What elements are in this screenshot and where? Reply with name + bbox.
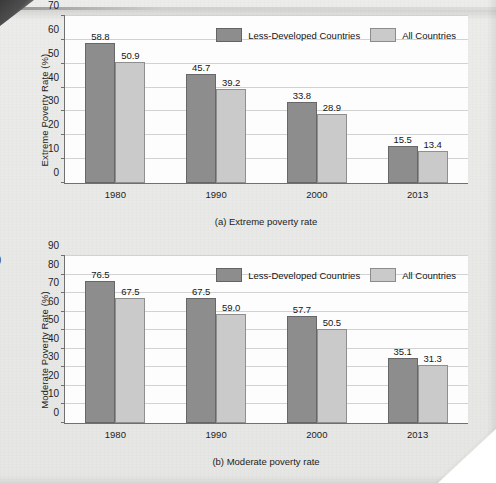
bar[interactable]: 50.9 (115, 62, 145, 183)
x-axis-tick-label: 1990 (206, 189, 227, 200)
legend-label: All Countries (402, 270, 456, 281)
x-axis-tick-label: 2013 (407, 429, 428, 440)
y-axis-tick-label: 30 (48, 351, 59, 362)
y-axis-tick-label: 0 (53, 407, 59, 418)
legend-item[interactable]: All Countries (370, 28, 456, 42)
y-axis-tick-label: 0 (53, 167, 59, 178)
chart-figure-b: ) Moderate Poverty Rate (%) 010203040506… (0, 250, 496, 478)
bar[interactable]: 59.0 (216, 314, 246, 423)
chart-b-area: Moderate Poverty Rate (%) 01020304050607… (18, 250, 476, 450)
bar-value-label: 15.5 (393, 134, 412, 145)
y-axis-tick-label: 50 (48, 47, 59, 58)
bar[interactable]: 39.2 (216, 89, 246, 183)
y-axis-tick-label: 80 (48, 258, 59, 269)
bar-value-label: 59.0 (222, 302, 241, 313)
bar-value-label: 76.5 (91, 269, 110, 280)
legend-swatch-dark (216, 268, 242, 282)
y-axis-tick-label: 40 (48, 332, 59, 343)
bar-group: 76.567.51980 (65, 256, 166, 423)
y-axis-tick-label: 90 (48, 240, 59, 251)
bar-value-label: 35.1 (393, 346, 412, 357)
bar-value-label: 67.5 (192, 286, 211, 297)
bar[interactable]: 57.7 (287, 316, 317, 423)
chart-figure-a: Extreme Poverty Rate (%) 010203040506070… (0, 10, 496, 238)
bar-value-label: 33.8 (293, 90, 312, 101)
bar-value-label: 28.9 (323, 102, 342, 113)
legend-item[interactable]: All Countries (370, 268, 456, 282)
x-axis-tick-label: 2013 (407, 189, 428, 200)
bar-value-label: 50.5 (323, 317, 342, 328)
bar-group: 58.850.91980 (65, 16, 166, 183)
chart-a-area: Extreme Poverty Rate (%) 010203040506070… (18, 10, 476, 210)
y-axis-tick-label: 70 (48, 0, 59, 11)
chart-a-caption: (a) Extreme poverty rate (64, 216, 468, 227)
y-axis-tick-label: 20 (48, 369, 59, 380)
x-axis-tick-label: 2000 (306, 429, 327, 440)
bar-value-label: 67.5 (121, 286, 140, 297)
bar[interactable]: 35.1 (388, 358, 418, 423)
bar[interactable]: 50.5 (317, 329, 347, 423)
y-axis-tick-label: 60 (48, 295, 59, 306)
y-axis-tick-label: 40 (48, 71, 59, 82)
bar-value-label: 58.8 (91, 31, 110, 42)
legend-label: All Countries (402, 30, 456, 41)
chart-b-caption: (b) Moderate poverty rate (64, 456, 468, 467)
scanned-figure-page: Extreme Poverty Rate (%) 010203040506070… (0, 0, 496, 483)
x-axis-tick-label: 1980 (105, 189, 126, 200)
y-axis-tick-label: 60 (48, 23, 59, 34)
y-axis-tick-label: 20 (48, 119, 59, 130)
legend-item[interactable]: Less-Developed Countries (216, 28, 360, 42)
bar-value-label: 50.9 (121, 50, 140, 61)
bar-value-label: 45.7 (192, 62, 211, 73)
y-axis-tick-label: 70 (48, 277, 59, 288)
bar[interactable]: 31.3 (418, 365, 448, 423)
legend-swatch-dark (216, 28, 242, 42)
bar[interactable]: 13.4 (418, 151, 448, 183)
figure-b-marker: ) (0, 254, 1, 265)
x-axis-tick-label: 1990 (206, 429, 227, 440)
legend-swatch-light (370, 268, 396, 282)
y-axis-tick-label: 10 (48, 143, 59, 154)
chart-a-legend: Less-Developed CountriesAll Countries (216, 28, 456, 42)
chart-b-legend: Less-Developed CountriesAll Countries (216, 268, 456, 282)
bar[interactable]: 15.5 (388, 146, 418, 183)
legend-label: Less-Developed Countries (248, 270, 360, 281)
bar[interactable]: 58.8 (85, 43, 115, 183)
x-axis-tick-label: 1980 (105, 429, 126, 440)
y-axis-tick-label: 10 (48, 388, 59, 399)
y-axis-tick-label: 30 (48, 95, 59, 106)
bar[interactable]: 45.7 (186, 74, 216, 183)
bar[interactable]: 28.9 (317, 114, 347, 183)
chart-b-plot-wrap: 010203040506070809076.567.5198067.559.01… (64, 256, 468, 424)
legend-item[interactable]: Less-Developed Countries (216, 268, 360, 282)
legend-swatch-light (370, 28, 396, 42)
bar[interactable]: 76.5 (85, 281, 115, 423)
bar[interactable]: 67.5 (186, 298, 216, 423)
y-axis-tick-label: 50 (48, 314, 59, 325)
bar[interactable]: 67.5 (115, 298, 145, 423)
legend-label: Less-Developed Countries (248, 30, 360, 41)
chart-a-plot-wrap: 01020304050607058.850.9198045.739.219903… (64, 16, 468, 184)
x-axis-tick-label: 2000 (306, 189, 327, 200)
bar-value-label: 13.4 (423, 139, 442, 150)
bar[interactable]: 33.8 (287, 102, 317, 183)
bar-value-label: 39.2 (222, 77, 241, 88)
bar-value-label: 31.3 (423, 353, 442, 364)
bar-value-label: 57.7 (293, 304, 312, 315)
